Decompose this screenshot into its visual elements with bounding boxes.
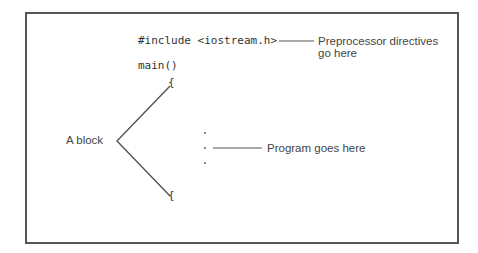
preprocessor-annotation-line2: go here xyxy=(318,47,357,59)
block-bracket-lines xyxy=(117,86,170,196)
program-annotation: Program goes here xyxy=(267,142,365,154)
main-function: main() xyxy=(138,59,178,72)
preprocessor-annotation-line1: Preprocessor directives xyxy=(318,35,438,47)
include-directive: #include <iostream.h> xyxy=(138,34,277,47)
ellipsis-dot-1 xyxy=(204,132,206,134)
open-brace: { xyxy=(168,76,175,89)
close-brace: { xyxy=(168,189,175,202)
ellipsis-dot-2 xyxy=(204,147,206,149)
ellipsis-dot-3 xyxy=(204,162,206,164)
block-annotation: A block xyxy=(66,134,103,146)
